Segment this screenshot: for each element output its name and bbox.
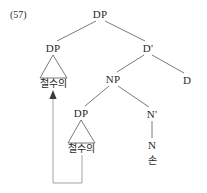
node-dbar: D' [143,43,153,54]
movement-arrow [49,90,82,183]
branch-lines [57,21,184,138]
syntax-tree-figure: (57) DPDPD'NPDDPN'N 철수의철수의손 [0,0,207,193]
triangle-lower_dp [68,120,95,143]
node-spec_dp: DP [46,43,60,54]
branch-dbar-to-np [117,55,144,72]
node-np: NP [106,74,120,85]
node-lower_dp: DP [74,108,88,119]
triangle-spec_dp [40,55,67,78]
terminal-spec_dp_text: 철수의 [40,79,67,89]
constituent-triangles [40,55,95,143]
tree-diagram-canvas [0,0,207,193]
branch-root_dp-to-dbar [105,21,145,41]
node-root_dp: DP [93,9,107,20]
node-d_head: D [183,75,191,86]
branch-np-to-nbar [118,86,149,107]
movement-arrowhead [49,90,56,99]
node-nbar: N' [147,109,157,120]
branch-root_dp-to-spec_dp [57,21,96,41]
terminal-lower_dp_text: 철수의 [68,144,95,154]
branch-dbar-to-d_head [152,55,184,73]
terminal-n_head_text: 손 [148,156,157,166]
node-n_head: N [148,140,156,151]
branch-np-to-lower_dp [85,86,109,106]
